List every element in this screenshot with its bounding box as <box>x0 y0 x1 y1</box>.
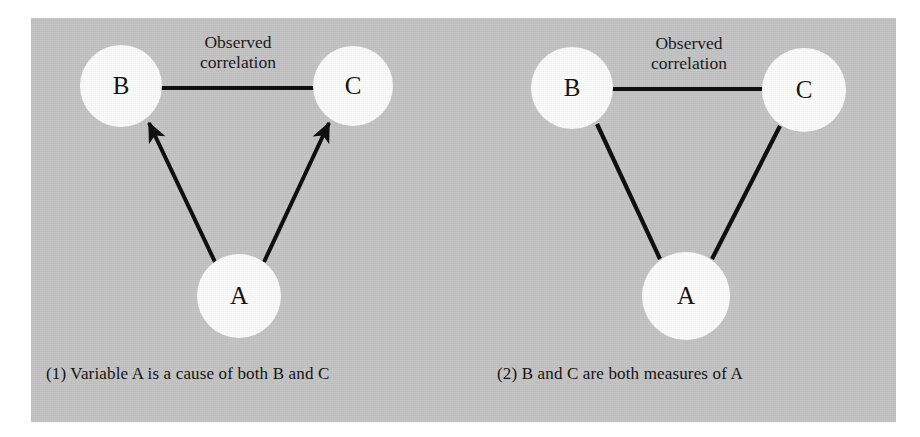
node-a-label: A <box>230 282 248 309</box>
panel-1-caption: (1) Variable A is a cause of both B and … <box>46 364 329 383</box>
node-c-label: C <box>796 76 813 103</box>
observed-correlation-label-line2: correlation <box>200 52 276 72</box>
node-b-label: B <box>113 72 130 99</box>
node-c-label: C <box>345 72 362 99</box>
figure-root: B C A Observed correlation (1) Variable … <box>0 0 920 437</box>
panel-2-caption: (2) B and C are both measures of A <box>497 364 743 383</box>
observed-correlation-label-line1: Observed <box>655 33 722 53</box>
node-b-label: B <box>564 74 581 101</box>
causal-diagram-figure: B C A Observed correlation (1) Variable … <box>0 0 920 437</box>
node-a-label: A <box>677 282 695 309</box>
observed-correlation-label-line1: Observed <box>204 32 271 52</box>
observed-correlation-label-line2: correlation <box>651 53 727 73</box>
